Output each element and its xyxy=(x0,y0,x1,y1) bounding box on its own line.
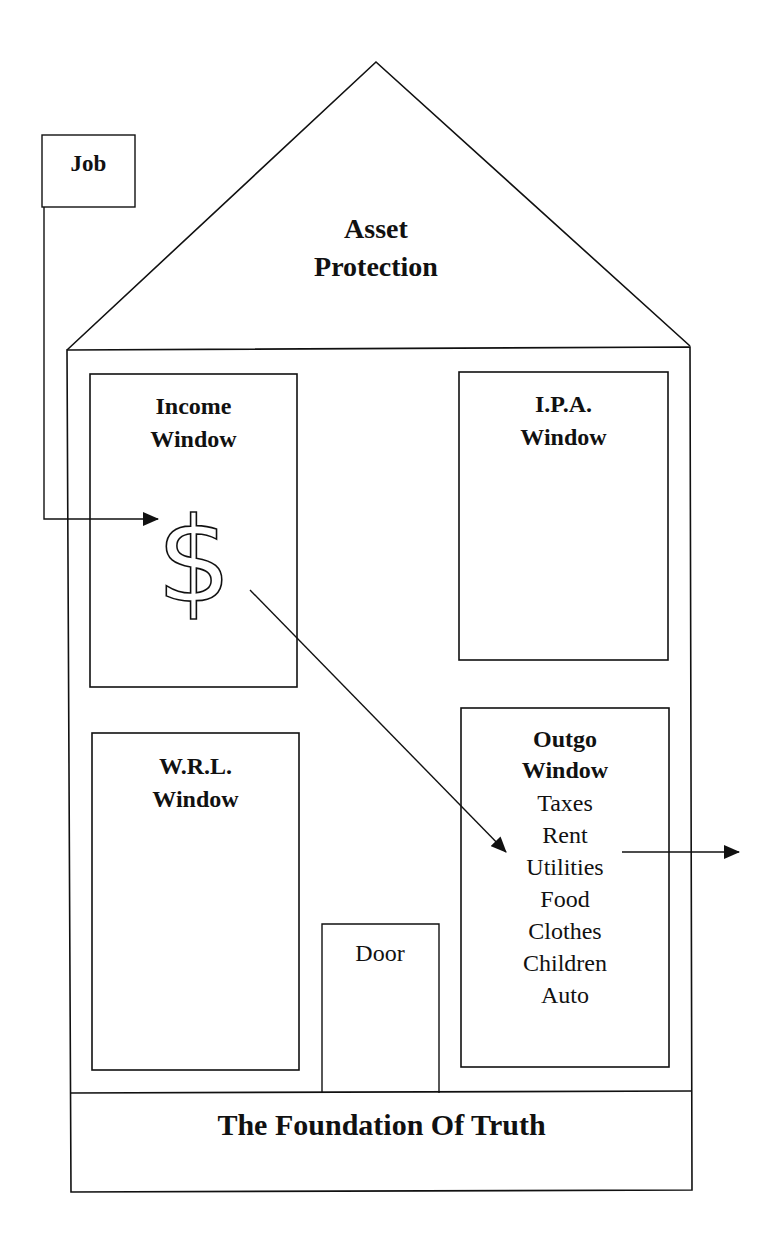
ipa-window-label: I.P.A. Window xyxy=(459,388,668,454)
roof-title: Asset Protection xyxy=(276,210,476,286)
foundation-divider xyxy=(70,1091,692,1093)
outgo-item-clothes: Clothes xyxy=(461,915,669,947)
outgo-item-food: Food xyxy=(461,883,669,915)
roof xyxy=(67,62,690,350)
outgo-window-content: Outgo Window Taxes Rent Utilities Food C… xyxy=(461,723,669,1011)
income-line2: Window xyxy=(90,423,297,456)
outgo-item-taxes: Taxes xyxy=(461,787,669,819)
door-label: Door xyxy=(330,940,430,967)
foundation-label: The Foundation Of Truth xyxy=(71,1108,692,1142)
outgo-line2: Window xyxy=(461,754,669,787)
roof-title-line2: Protection xyxy=(276,248,476,286)
house-diagram: $ xyxy=(0,0,775,1250)
dollar-icon: $ xyxy=(156,492,231,630)
income-window-label: Income Window xyxy=(90,390,297,456)
wrl-line2: Window xyxy=(92,783,299,816)
income-line1: Income xyxy=(90,390,297,423)
outgo-item-auto: Auto xyxy=(461,979,669,1011)
wrl-line1: W.R.L. xyxy=(92,750,299,783)
roof-title-line1: Asset xyxy=(276,210,476,248)
wrl-window-label: W.R.L. Window xyxy=(92,750,299,816)
job-label: Job xyxy=(42,151,135,177)
ipa-line1: I.P.A. xyxy=(459,388,668,421)
outgo-item-children: Children xyxy=(461,947,669,979)
outgo-line1: Outgo xyxy=(461,723,669,756)
outgo-item-utilities: Utilities xyxy=(461,851,669,883)
job-to-income-arrow xyxy=(44,207,158,519)
ipa-line2: Window xyxy=(459,421,668,454)
outgo-item-rent: Rent xyxy=(461,819,669,851)
